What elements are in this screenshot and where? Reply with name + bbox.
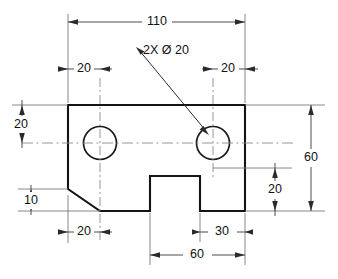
dimension-hole-offset-left: 20 <box>58 61 112 75</box>
dimension-notch-span: 60 <box>150 246 245 264</box>
arrowhead-bottom-60-left <box>150 252 160 258</box>
dimtext-top-left-20: 20 <box>77 61 91 75</box>
arrowhead-left-20-top <box>19 105 25 115</box>
arrowhead-top-right-20-left <box>203 66 213 72</box>
arrowhead-bottom-left-20-right <box>100 229 110 235</box>
arrowhead-bottom-left-20-left <box>58 229 68 235</box>
arrowhead-right-60-bottom <box>308 201 314 211</box>
arrowhead-top-right-20-right <box>245 66 255 72</box>
dimtext-bottom-left-20: 20 <box>77 224 91 238</box>
dimension-notch-height: 20 <box>261 163 290 216</box>
dimension-notch-right-offset: 30 <box>192 224 253 238</box>
arrowhead-110-right <box>235 19 245 25</box>
arrowhead-right-20-top <box>272 168 278 178</box>
dimtext-right-20: 20 <box>268 182 282 196</box>
arrowhead-top-left-20-right <box>100 66 110 72</box>
dimtext-top-right-20: 20 <box>221 61 235 75</box>
dimtext-110: 110 <box>147 14 167 28</box>
hole-note-group: 2X Ø 20 <box>136 43 209 135</box>
arrowhead-30-left <box>192 229 200 234</box>
dimtext-hole-note: 2X Ø 20 <box>143 43 189 57</box>
centerlines-group <box>22 78 296 243</box>
dimtext-30: 30 <box>215 224 229 238</box>
dimension-hole-offset-right: 20 <box>202 61 258 75</box>
dimension-chamfer-width: 20 <box>58 224 112 238</box>
dimension-chamfer-height: 10 <box>17 185 45 215</box>
dimension-overall-height: 60 <box>297 105 326 211</box>
arrowhead-30-right <box>245 229 253 234</box>
dimtext-left-10: 10 <box>24 193 38 207</box>
dimtext-bottom-60: 60 <box>190 247 204 261</box>
cad-drawing-svg: 110 2X Ø 20 20 20 <box>0 0 338 279</box>
arrowhead-bottom-60-right <box>235 252 245 258</box>
arrowhead-right-60-top <box>308 105 314 115</box>
technical-drawing-canvas: 110 2X Ø 20 20 20 <box>0 0 338 279</box>
dimtext-left-20: 20 <box>14 117 28 131</box>
dimension-hole-height: 20 <box>6 100 36 148</box>
leader-line-hole-note <box>139 50 206 131</box>
arrowhead-110-left <box>68 19 78 25</box>
dimtext-right-60: 60 <box>304 150 318 164</box>
arrowhead-left-20-bottom <box>19 133 25 143</box>
arrowhead-right-20-bottom <box>272 201 278 211</box>
dimension-overall-width: 110 <box>68 13 245 31</box>
arrowhead-top-left-20-left <box>58 66 68 72</box>
